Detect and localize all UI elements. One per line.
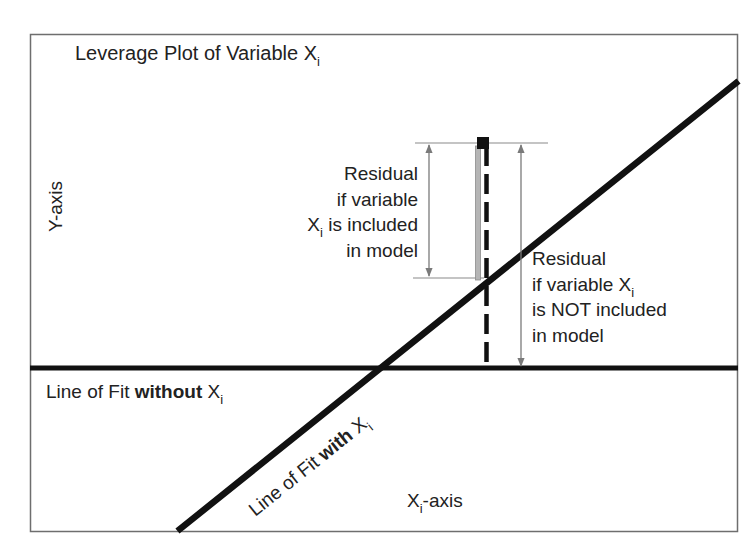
x-axis-label: Xi-axis (407, 489, 463, 513)
data-point-marker (477, 137, 489, 149)
line-without-xi-label: Line of Fit without Xi (46, 380, 223, 404)
residual-included-label: Residual if variable Xi is included in m… (307, 161, 418, 263)
residual-included-bar (476, 146, 481, 280)
residual-not-included-label: Residual if variable Xi is NOT included … (532, 246, 667, 348)
y-axis-label: Y-axis (44, 181, 68, 232)
diagram-title: Leverage Plot of Variable Xi (75, 41, 320, 65)
